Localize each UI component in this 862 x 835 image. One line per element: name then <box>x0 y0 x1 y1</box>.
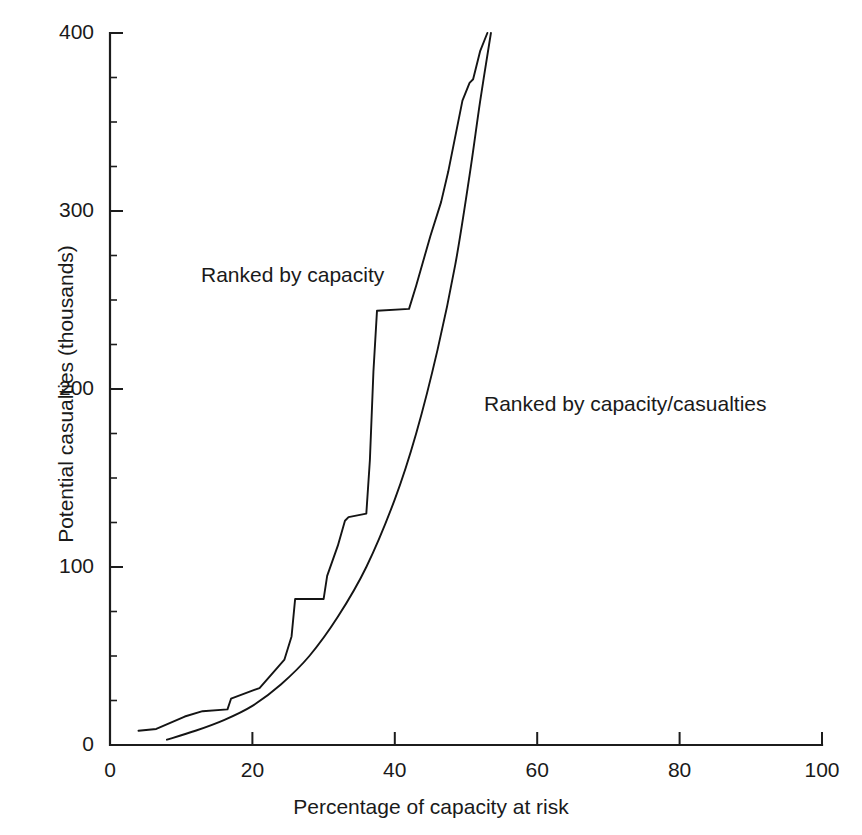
series-group <box>138 33 490 740</box>
x-tick-label-80: 80 <box>640 758 720 782</box>
x-tick-label-0: 0 <box>70 758 150 782</box>
y-tick-label-200: 200 <box>10 376 94 400</box>
series-label-ranked-by-capacity-casualties: Ranked by capacity/casualties <box>484 392 767 416</box>
y-axis-ticks <box>110 33 123 745</box>
x-tick-label-100: 100 <box>782 758 862 782</box>
chart-figure: 0100200300400 020406080100 Potential cas… <box>0 0 862 835</box>
y-tick-label-400: 400 <box>10 20 94 44</box>
x-tick-label-40: 40 <box>355 758 435 782</box>
series-line-1 <box>167 33 491 740</box>
axes-group <box>110 33 822 745</box>
series-label-ranked-by-capacity: Ranked by capacity <box>201 263 384 287</box>
y-tick-label-300: 300 <box>10 198 94 222</box>
x-axis-ticks <box>252 732 822 745</box>
y-axis-title: Potential casualties (thousands) <box>54 204 78 584</box>
x-axis-title: Percentage of capacity at risk <box>0 795 862 819</box>
axis-lines <box>110 33 822 745</box>
plot-canvas <box>0 0 862 835</box>
y-tick-label-100: 100 <box>10 554 94 578</box>
x-tick-label-20: 20 <box>212 758 292 782</box>
series-line-0 <box>138 33 487 731</box>
x-tick-label-60: 60 <box>497 758 577 782</box>
y-tick-label-0: 0 <box>10 732 94 756</box>
